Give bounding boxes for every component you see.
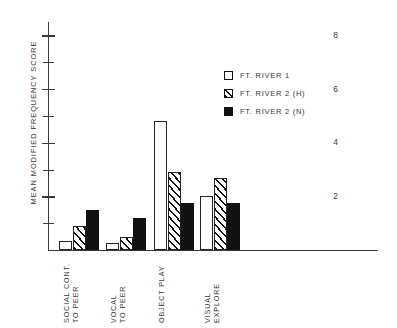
y-axis-line <box>48 22 49 250</box>
y-tick-label: 2 <box>316 191 338 201</box>
y-tick-minor <box>43 62 54 63</box>
y-tick-major <box>42 143 55 144</box>
legend-swatch-solid-icon <box>224 107 233 116</box>
y-tick-label: 6 <box>316 84 338 94</box>
y-tick-minor <box>43 223 54 224</box>
legend-swatch-hatched-icon <box>224 89 233 98</box>
x-axis-category-label: VOCALTO PEER <box>110 286 127 323</box>
legend-item: FT. RIVER 1 <box>224 66 305 84</box>
bar-chart: MEAN MODIFIED FREQUENCY SCORE 2468 SOCIA… <box>0 0 397 328</box>
x-axis-category-label: OBJECT PLAY <box>158 266 167 323</box>
bar <box>214 178 227 250</box>
bar <box>120 237 133 250</box>
y-tick-label: 4 <box>316 137 338 147</box>
legend-item: FT. RIVER 2 (H) <box>224 84 305 102</box>
legend-label: FT. RIVER 1 <box>240 71 290 80</box>
legend-item: FT. RIVER 2 (N) <box>224 102 305 120</box>
bar-group <box>106 22 146 250</box>
bar-group <box>154 22 194 250</box>
legend-swatch-white-icon <box>224 71 233 80</box>
bar <box>154 121 167 250</box>
y-tick-minor <box>43 170 54 171</box>
y-tick-major <box>42 35 55 36</box>
legend-label: FT. RIVER 2 (H) <box>240 89 305 98</box>
y-tick-major <box>42 89 55 90</box>
y-axis-title: MEAN MODIFIED FREQUENCY SCORE <box>29 8 38 238</box>
bar-group <box>200 22 240 250</box>
bar <box>168 172 181 250</box>
x-axis-line <box>48 250 378 251</box>
bar <box>73 226 86 250</box>
x-axis-category-label: SOCIAL CONT.TO PEER <box>63 263 80 323</box>
bar <box>86 210 99 250</box>
bar-group <box>59 22 99 250</box>
y-tick-label: 8 <box>316 30 338 40</box>
bar <box>106 243 119 250</box>
y-tick-major <box>42 196 55 197</box>
bar <box>200 196 213 250</box>
bar <box>59 241 72 250</box>
legend: FT. RIVER 1 FT. RIVER 2 (H) FT. RIVER 2 … <box>224 66 305 120</box>
x-axis-category-label: VISUALEXPLORE <box>204 283 221 323</box>
bar <box>133 218 146 250</box>
bar <box>227 203 240 250</box>
y-tick-minor <box>43 116 54 117</box>
plot-area: 2468 <box>48 22 348 250</box>
bar <box>181 203 194 250</box>
legend-label: FT. RIVER 2 (N) <box>240 107 305 116</box>
